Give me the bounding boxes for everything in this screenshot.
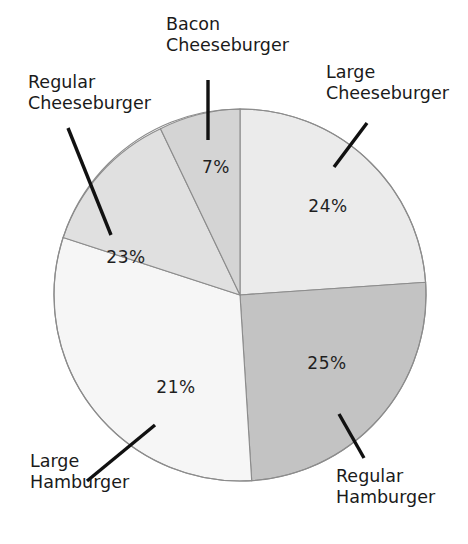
pie-slice-regular-hamburger[interactable] <box>240 282 426 480</box>
pie-value-bacon-cheeseburger: 7% <box>202 157 230 177</box>
pie-value-regular-cheeseburger: 23% <box>106 247 145 267</box>
pie-label-large-cheeseburger: Large Cheeseburger <box>326 62 449 105</box>
pie-label-regular-hamburger-line2: Hamburger <box>336 487 435 508</box>
pie-label-regular-hamburger: Regular Hamburger <box>336 466 435 509</box>
pie-value-large-cheeseburger: 24% <box>308 196 347 216</box>
pie-label-large-hamburger-line1: Large <box>30 451 79 471</box>
pie-label-regular-cheeseburger-line2: Cheeseburger <box>28 93 151 114</box>
pie-label-regular-hamburger-line1: Regular <box>336 466 403 486</box>
pie-value-large-hamburger: 21% <box>156 377 195 397</box>
pie-label-large-cheeseburger-line2: Cheeseburger <box>326 83 449 104</box>
pie-chart: 24% 25% 21% 23% 7% Bacon Cheeseburger La… <box>0 0 468 544</box>
pie-label-regular-cheeseburger-line1: Regular <box>28 72 95 92</box>
pie-label-large-hamburger-line2: Hamburger <box>30 472 129 493</box>
pie-label-bacon-cheeseburger-line1: Bacon <box>166 14 220 34</box>
pie-label-regular-cheeseburger: Regular Cheeseburger <box>28 72 151 115</box>
pie-label-large-cheeseburger-line1: Large <box>326 62 375 82</box>
pie-value-regular-hamburger: 25% <box>307 353 346 373</box>
pie-label-bacon-cheeseburger: Bacon Cheeseburger <box>166 14 289 57</box>
pie-label-large-hamburger: Large Hamburger <box>30 451 129 494</box>
pie-label-bacon-cheeseburger-line2: Cheeseburger <box>166 35 289 56</box>
